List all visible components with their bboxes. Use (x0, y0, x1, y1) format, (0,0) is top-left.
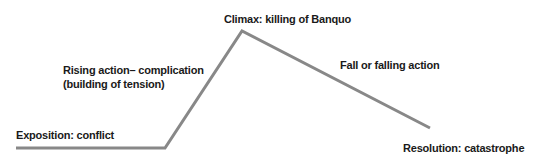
label-climax: Climax: killing of Banquo (224, 12, 351, 26)
label-falling-action: Fall or falling action (340, 58, 440, 72)
label-rising-action: Rising action– complication (63, 63, 204, 77)
label-exposition: Exposition: conflict (16, 128, 114, 142)
label-rising-action-sub: (building of tension) (63, 77, 165, 91)
label-resolution: Resolution: catastrophe (403, 141, 524, 155)
